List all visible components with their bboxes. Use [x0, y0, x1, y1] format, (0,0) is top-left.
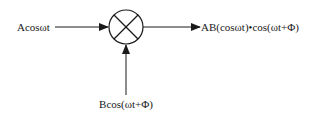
output-label: AB(cosωt)•cos(ωt+Φ) — [201, 21, 299, 34]
multiplier-circle-x-icon — [109, 10, 143, 44]
input-a-label: Acosωt — [17, 21, 50, 33]
mixer-diagram: Acosωt AB(cosωt)•cos(ωt+Φ) Bcos(ωt+Φ) — [0, 0, 320, 118]
input-b-label: Bcos(ωt+Φ) — [99, 98, 153, 111]
